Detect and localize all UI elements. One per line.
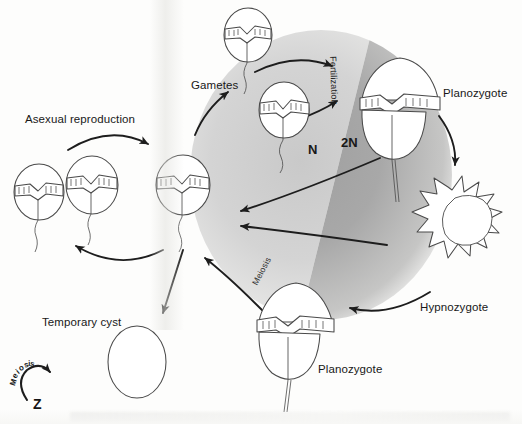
label-ploidy-haploid: N: [308, 142, 318, 157]
diagram-canvas: [0, 0, 522, 424]
cell-vegetative-1: [14, 164, 64, 252]
legend-char-s2: s: [29, 359, 35, 369]
label-hypnozygote: Hypnozygote: [420, 301, 488, 313]
arrow-asexual: [68, 135, 148, 150]
legend-z-marker: Z: [33, 396, 42, 412]
label-temporary-cyst: Temporary cyst: [42, 316, 121, 328]
cell-planozygote-bottom: [257, 283, 334, 412]
cell-temporary-cyst: [108, 326, 166, 398]
life-cycle-diagram: Asexual reproduction Gametes Fertilizati…: [0, 0, 522, 424]
arrow-recycle-to-vegetative: [76, 246, 163, 260]
label-planozygote-top: Planozygote: [443, 87, 507, 99]
label-planozygote-bottom: Planozygote: [318, 363, 382, 375]
arrow-to-temporary-cyst: [163, 250, 183, 313]
legend-meiosis-text: M e i o s i s: [6, 358, 58, 392]
cell-vegetative-2: [66, 156, 118, 245]
label-gametes: Gametes: [191, 79, 238, 91]
label-asexual-reproduction: Asexual reproduction: [25, 113, 135, 125]
cell-vegetative-3: [156, 155, 210, 252]
label-fertilization: Fertilization: [328, 56, 340, 105]
label-ploidy-diploid: 2N: [341, 135, 358, 150]
